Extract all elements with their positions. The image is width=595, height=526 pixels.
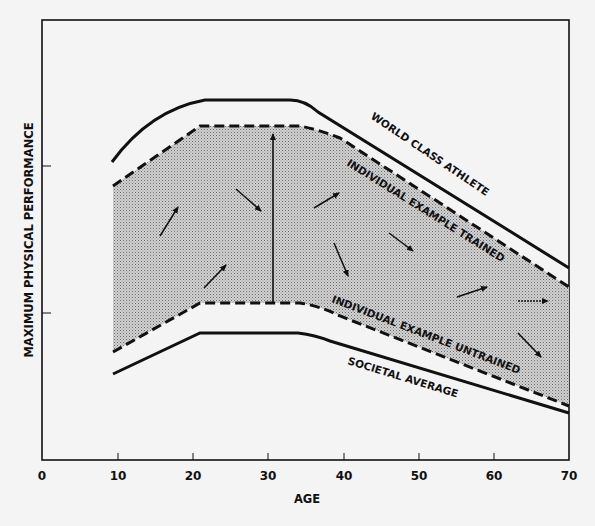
x-tick-label: 0 (38, 469, 46, 483)
societal-average-label: SOCIETAL AVERAGE (346, 354, 459, 399)
x-tick-label: 50 (411, 469, 428, 483)
x-tick-label: 60 (486, 469, 503, 483)
y-axis-ticks (42, 166, 51, 313)
performance-age-chart: WORLD CLASS ATHLETE INDIVIDUAL EXAMPLE T… (0, 0, 595, 526)
x-axis-title: AGE (294, 492, 320, 506)
y-axis-title: MAXIMUM PHYSICAL PERFORMANCE (22, 122, 36, 357)
x-tick-label: 20 (185, 469, 202, 483)
x-tick-label: 30 (260, 469, 277, 483)
x-tick-label: 40 (336, 469, 353, 483)
x-tick-label: 70 (561, 469, 578, 483)
x-axis-ticks (118, 453, 494, 460)
x-tick-label: 10 (110, 469, 127, 483)
x-tick-labels: 0 10 20 30 40 50 60 70 (38, 469, 578, 483)
